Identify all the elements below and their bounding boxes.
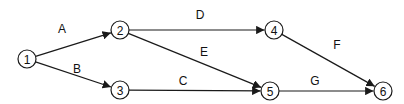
node-6: 6 (374, 82, 392, 100)
node-label: 4 (271, 24, 278, 38)
edge-e-arrow (128, 33, 261, 87)
diagram-svg: 123456 ABCDEFG (0, 0, 404, 104)
edges-group (36, 30, 375, 91)
node-label: 6 (380, 85, 387, 99)
edge-label-a: A (58, 22, 66, 36)
node-4: 4 (265, 21, 283, 39)
edge-label-b: B (73, 62, 81, 76)
edge-f-arrow (282, 34, 375, 86)
node-1: 1 (18, 50, 36, 68)
nodes-group: 123456 (18, 21, 392, 100)
edge-label-c: C (179, 74, 188, 88)
node-3: 3 (111, 81, 129, 99)
node-label: 5 (267, 85, 274, 99)
network-diagram: 123456 ABCDEFG (0, 0, 404, 104)
node-2: 2 (111, 21, 129, 39)
edge-label-f: F (333, 38, 340, 52)
node-label: 1 (24, 53, 31, 67)
edge-labels-group: ABCDEFG (58, 8, 341, 88)
edge-label-d: D (196, 8, 205, 22)
edge-label-e: E (200, 45, 208, 59)
node-label: 3 (117, 84, 124, 98)
edge-label-g: G (310, 74, 319, 88)
edge-c-arrow (129, 90, 261, 91)
node-label: 2 (117, 24, 124, 38)
node-5: 5 (261, 82, 279, 100)
edge-a-arrow (36, 33, 111, 56)
